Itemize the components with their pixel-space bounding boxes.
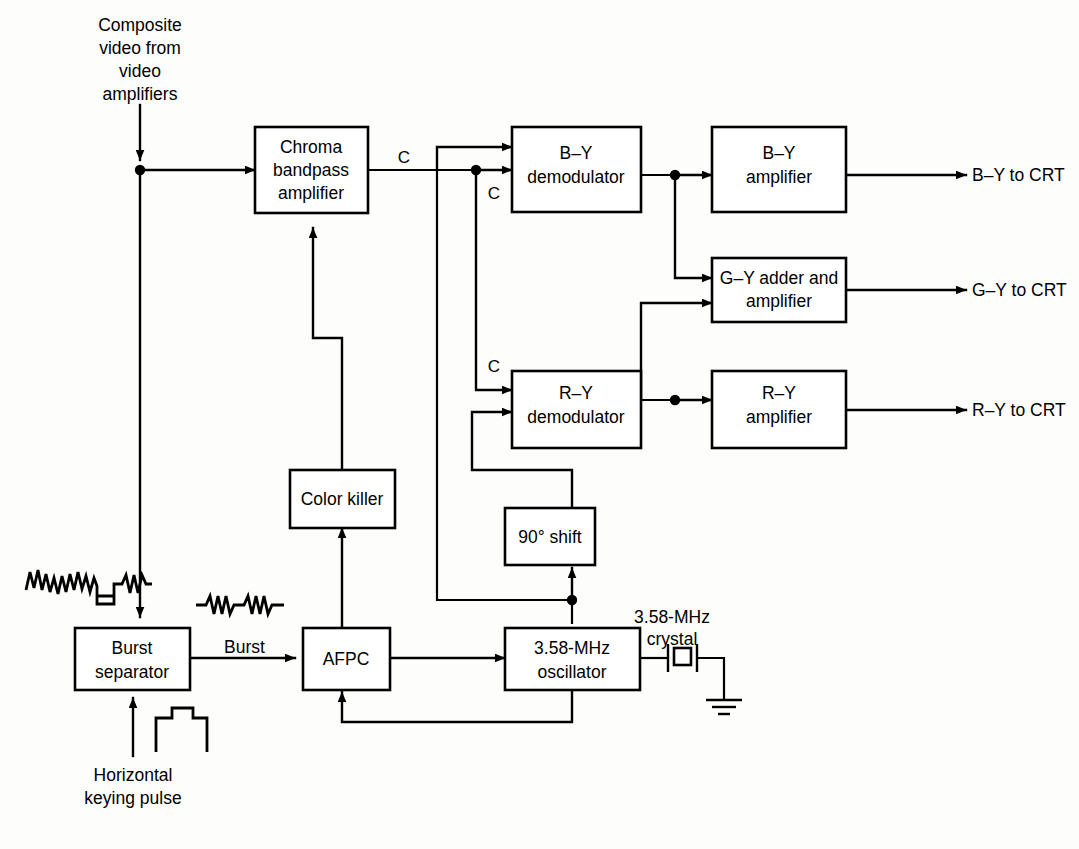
burst-separator-label-2: separator (95, 662, 169, 682)
wire-color-killer-to-chroma (313, 228, 342, 470)
ry-amplifier-label-2: amplifier (746, 407, 812, 427)
gy-adder-label-2: amplifier (746, 291, 812, 311)
burst-separator-label-1: Burst (112, 638, 153, 658)
input-composite-label-3: video (119, 61, 161, 81)
chroma-bandpass-label-2: bandpass (273, 160, 349, 180)
wire-ry-to-gy-adder (641, 303, 712, 400)
signal-label-c-top: C (398, 148, 410, 167)
wire-oscillator-feedback-to-afpc (342, 692, 572, 722)
by-demodulator-label-1: B–Y (559, 143, 592, 163)
chroma-bandpass-label-1: Chroma (280, 137, 343, 157)
color-killer-label: Color killer (301, 489, 384, 509)
composite-video-waveform-icon (26, 570, 152, 604)
wire-crystal-to-ground (697, 658, 724, 700)
schematic-svg: Chroma bandpass amplifier B–Y demodulato… (0, 0, 1079, 849)
oscillator-label-2: oscillator (537, 662, 606, 682)
junction-dot-composite-branch (135, 165, 145, 175)
ry-demodulator-label-1: R–Y (559, 383, 593, 403)
input-composite-label-4: amplifiers (103, 84, 178, 104)
ry-demodulator-label-2: demodulator (527, 407, 624, 427)
input-composite-label-2: video from (99, 38, 181, 58)
by-demodulator-label-2: demodulator (527, 167, 624, 187)
keying-pulse-waveform-icon (156, 708, 207, 752)
phase-shift-label: 90° shift (518, 527, 582, 547)
chroma-bandpass-label-3: amplifier (278, 183, 344, 203)
crystal-body (674, 648, 691, 665)
by-amplifier-label-1: B–Y (762, 143, 795, 163)
input-keying-label-1: Horizontal (94, 765, 173, 785)
afpc-label: AFPC (323, 649, 370, 669)
signal-label-c-ry: C (488, 357, 500, 376)
block-diagram-canvas: Chroma bandpass amplifier B–Y demodulato… (0, 0, 1079, 849)
gy-adder-label-1: G–Y adder and (720, 268, 838, 288)
input-composite-label-1: Composite (98, 15, 182, 35)
oscillator-label-1: 3.58-MHz (534, 638, 610, 658)
input-keying-label-2: keying pulse (84, 788, 181, 808)
ry-amplifier-label-1: R–Y (762, 383, 796, 403)
output-label-by-crt: B–Y to CRT (972, 165, 1065, 185)
output-label-ry-crt: R–Y to CRT (972, 400, 1066, 420)
output-label-gy-crt: G–Y to CRT (972, 280, 1067, 300)
signal-label-burst: Burst (224, 637, 265, 657)
crystal-label-2: crystal (647, 629, 698, 649)
signal-label-c-by: C (488, 184, 500, 203)
burst-waveform-icon (196, 596, 284, 614)
wire-by-to-gy-adder (675, 175, 712, 278)
crystal-label-1: 3.58-MHz (634, 607, 710, 627)
by-amplifier-label-2: amplifier (746, 167, 812, 187)
